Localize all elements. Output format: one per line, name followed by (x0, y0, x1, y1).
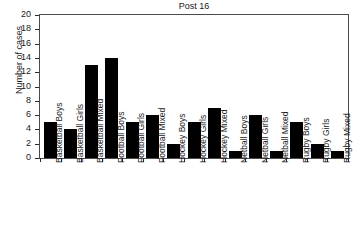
chart-figure: Post 16 Number of cases 0246810121416182… (0, 0, 356, 242)
y-tick-label: 8 (26, 95, 31, 106)
x-tick-mark (40, 158, 41, 162)
y-tick-label: 4 (26, 123, 31, 134)
x-tick-label: Football Mixed (157, 108, 167, 163)
y-tick: 4 (0, 129, 39, 130)
y-tick-mark (35, 58, 39, 59)
y-tick-label: 2 (26, 138, 31, 149)
x-tick-label: Netball Mixed (280, 112, 290, 164)
y-tick: 20 (0, 15, 39, 16)
y-tick-mark (35, 158, 39, 159)
x-tick-label: Football Girls (136, 113, 146, 163)
x-tick-label: Hockey Girls (198, 115, 208, 163)
x-tick-label: Hockey Boys (177, 113, 187, 163)
y-tick-mark (35, 44, 39, 45)
y-tick: 6 (0, 115, 39, 116)
y-tick: 10 (0, 87, 39, 88)
y-tick: 18 (0, 29, 39, 30)
y-tick-label: 18 (21, 23, 31, 34)
y-tick: 8 (0, 101, 39, 102)
y-tick-label: 12 (21, 66, 31, 77)
y-tick: 12 (0, 72, 39, 73)
y-tick-mark (35, 115, 39, 116)
y-tick-mark (35, 144, 39, 145)
y-tick-label: 0 (26, 152, 31, 163)
y-tick-label: 20 (21, 9, 31, 20)
y-tick-label: 14 (21, 52, 31, 63)
y-tick-mark (35, 129, 39, 130)
y-tick: 2 (0, 144, 39, 145)
x-tick-label: Hockey Mixed (219, 110, 229, 163)
y-tick-label: 6 (26, 109, 31, 120)
y-tick-mark (35, 72, 39, 73)
x-tick-label: Netball Boys (239, 115, 249, 163)
y-tick-label: 16 (21, 38, 31, 49)
y-tick-mark (35, 15, 39, 16)
x-tick-label: Basketball Girls (75, 104, 85, 163)
x-tick-label: Basketball Mixed (95, 99, 105, 163)
x-tick-label: Rugby Mixed (342, 113, 352, 163)
y-tick-mark (35, 29, 39, 30)
x-tick-label: Rugby Girls (321, 119, 331, 163)
y-tick: 0 (0, 158, 39, 159)
chart-title: Post 16 (39, 0, 349, 13)
x-tick-label: Netball Girls (260, 117, 270, 163)
y-tick: 14 (0, 58, 39, 59)
y-tick-label: 10 (21, 81, 31, 92)
x-tick-label: Football Boys (116, 112, 126, 164)
x-tick-label: Rugby Boys (301, 117, 311, 163)
y-tick-mark (35, 87, 39, 88)
y-tick: 16 (0, 44, 39, 45)
y-tick-mark (35, 101, 39, 102)
x-tick-label: Basketball Boys (54, 103, 64, 163)
